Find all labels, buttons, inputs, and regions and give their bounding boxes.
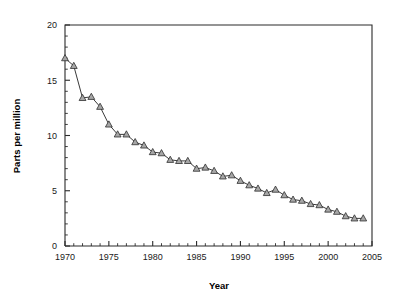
x-tick-label: 1995 — [274, 252, 294, 262]
y-tick-label: 20 — [47, 20, 57, 30]
x-axis-title: Year — [209, 280, 229, 291]
x-axis-ticks — [65, 241, 372, 246]
data-point-marker — [149, 148, 156, 154]
y-axis-tick-labels: 05101520 — [47, 20, 57, 251]
y-tick-label: 5 — [52, 186, 57, 196]
data-point-marker — [88, 93, 95, 99]
data-point-marker — [105, 121, 112, 127]
data-point-marker — [62, 55, 69, 61]
data-point-marker — [202, 164, 209, 170]
data-point-marker — [342, 213, 349, 219]
plot-frame — [65, 25, 372, 246]
y-tick-label: 0 — [52, 241, 57, 251]
x-tick-label: 1975 — [99, 252, 119, 262]
data-point-marker — [237, 177, 244, 183]
data-point-marker — [228, 172, 235, 178]
y-axis-title: Parts per million — [11, 99, 22, 174]
data-point-marker — [360, 215, 367, 221]
data-point-marker — [272, 186, 279, 192]
data-point-marker — [167, 156, 174, 162]
x-tick-label: 2000 — [318, 252, 338, 262]
x-tick-label: 1990 — [230, 252, 250, 262]
line-chart: 19701975198019851990199520002005 0510152… — [0, 0, 393, 306]
x-tick-label: 1985 — [187, 252, 207, 262]
chart-container: 19701975198019851990199520002005 0510152… — [0, 0, 393, 306]
y-tick-label: 10 — [47, 131, 57, 141]
x-axis-tick-labels: 19701975198019851990199520002005 — [55, 252, 382, 262]
data-point-markers — [62, 55, 367, 221]
x-tick-label: 2005 — [362, 252, 382, 262]
data-point-marker — [281, 192, 288, 198]
data-point-marker — [290, 196, 297, 202]
data-point-marker — [246, 182, 253, 188]
data-series-line — [65, 58, 363, 218]
data-point-marker — [325, 206, 332, 212]
x-tick-label: 1970 — [55, 252, 75, 262]
y-tick-label: 15 — [47, 76, 57, 86]
x-tick-label: 1980 — [143, 252, 163, 262]
